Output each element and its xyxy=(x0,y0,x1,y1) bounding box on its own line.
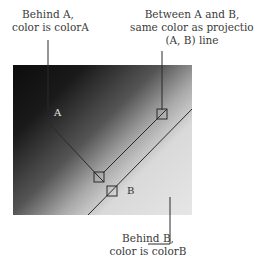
diagram-lines xyxy=(0,0,254,260)
point-a-label: A xyxy=(54,107,61,118)
behind-b-line1: Behind B, xyxy=(100,232,196,245)
line-a-to-projection xyxy=(44,118,99,177)
line-between-to-projection xyxy=(103,118,158,173)
behind-b-caption: Behind B, color is colorB xyxy=(100,232,196,258)
behind-b-line2: color is colorB xyxy=(100,245,196,258)
point-b-label: B xyxy=(127,185,134,196)
diagonal-line xyxy=(88,109,192,215)
